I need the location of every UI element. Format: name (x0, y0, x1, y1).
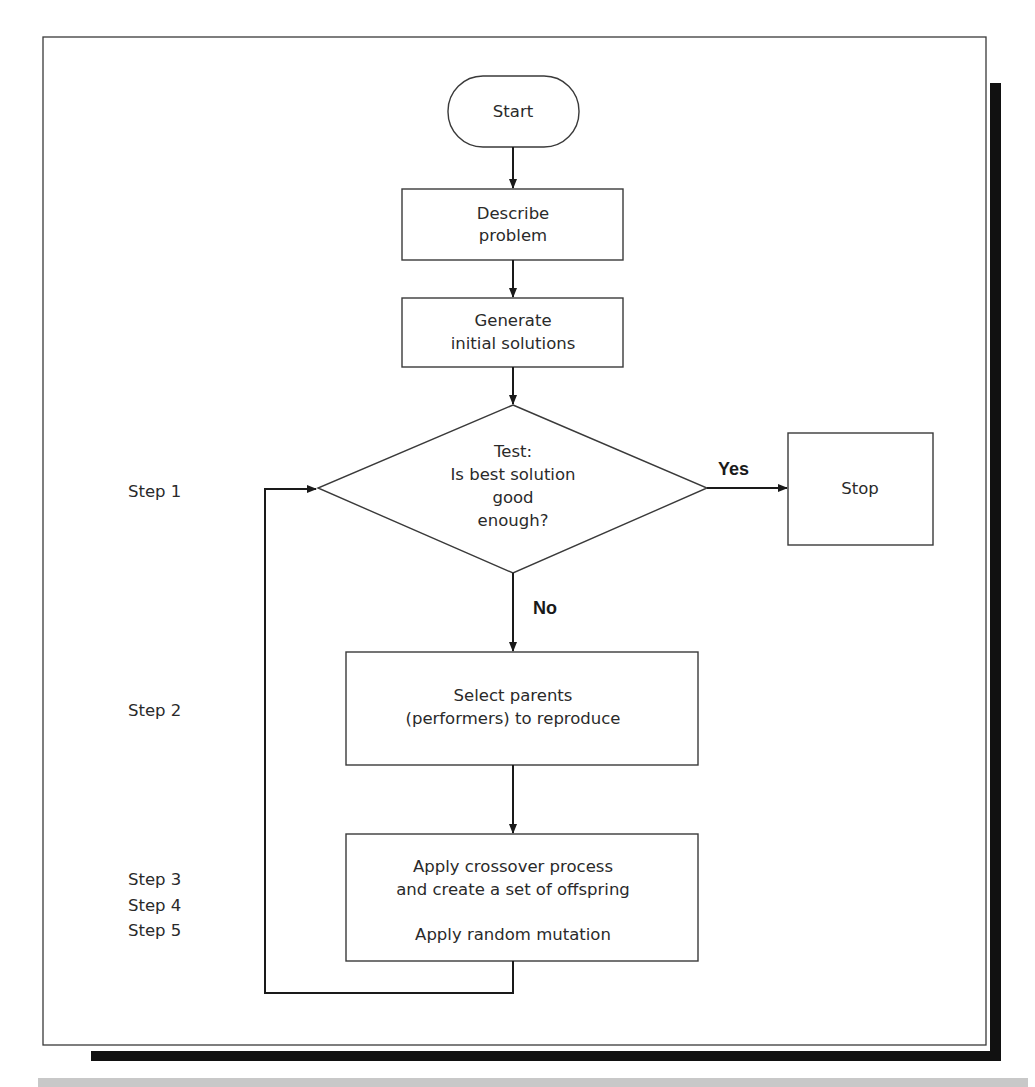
step-5-label: Step 5 (128, 921, 181, 940)
test-line4: enough? (478, 511, 549, 530)
step-2-label: Step 2 (128, 701, 181, 720)
select-line2: (performers) to reproduce (405, 709, 620, 728)
step-4-label: Step 4 (128, 896, 181, 915)
apply-line1: Apply crossover process (413, 857, 613, 876)
start-node: Start (448, 76, 579, 147)
test-line1: Test: (493, 442, 532, 461)
footer-band (38, 1078, 1028, 1087)
stop-node: Stop (788, 433, 933, 545)
generate-line2: initial solutions (451, 334, 576, 353)
describe-node: Describe problem (402, 189, 623, 260)
apply-line2: and create a set of offspring (396, 880, 630, 899)
flowchart-canvas: Start Describe problem Generate initial … (0, 0, 1035, 1087)
generate-line1: Generate (474, 311, 551, 330)
apply-line3: Apply random mutation (415, 925, 611, 944)
select-parents-node: Select parents (performers) to reproduce (346, 652, 698, 765)
test-line2: Is best solution (451, 465, 576, 484)
generate-node: Generate initial solutions (402, 298, 623, 367)
yes-label: Yes (718, 459, 749, 479)
describe-line2: problem (479, 226, 547, 245)
step-1-label: Step 1 (128, 482, 181, 501)
step-3-label: Step 3 (128, 870, 181, 889)
apply-crossover-node: Apply crossover process and create a set… (346, 834, 698, 961)
stop-label: Stop (841, 479, 879, 498)
frame-shadow-bottom (91, 1051, 1001, 1061)
no-label: No (533, 598, 557, 618)
start-label: Start (493, 102, 534, 121)
test-line3: good (492, 488, 533, 507)
frame-shadow-right (990, 83, 1001, 1060)
describe-line1: Describe (477, 204, 550, 223)
select-line1: Select parents (454, 686, 573, 705)
